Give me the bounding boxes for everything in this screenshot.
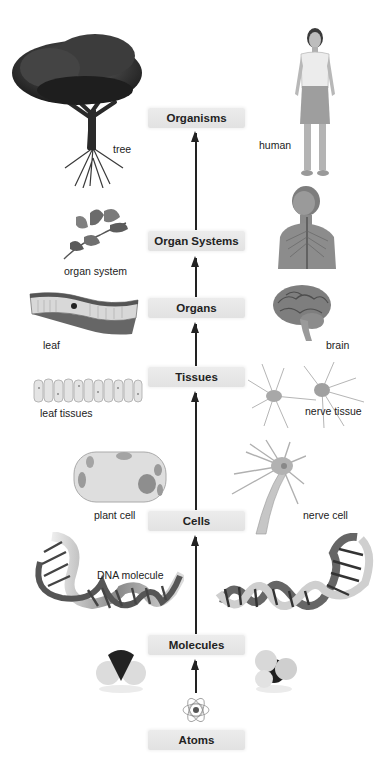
level-label: Organ Systems bbox=[154, 235, 238, 247]
nerve-tissue-icon bbox=[244, 360, 374, 430]
level-label: Tissues bbox=[175, 371, 218, 383]
caption-nerve-tissue: nerve tissue bbox=[305, 405, 362, 417]
level-organs: Organs bbox=[148, 298, 245, 318]
level-molecules: Molecules bbox=[148, 635, 245, 655]
atom-icon bbox=[181, 695, 211, 725]
arrow-up-icon bbox=[195, 661, 197, 693]
arrow-up-icon bbox=[195, 324, 197, 366]
caption-nerve-cell: nerve cell bbox=[303, 509, 348, 521]
level-label: Molecules bbox=[169, 639, 225, 651]
caption-dna-molecule: DNA molecule bbox=[97, 569, 164, 581]
tree-icon bbox=[5, 18, 145, 188]
leaf-cross-section-icon bbox=[28, 288, 140, 340]
leaf-tissue-icon bbox=[32, 376, 144, 406]
level-organ-systems: Organ Systems bbox=[148, 231, 245, 251]
level-label: Organs bbox=[176, 302, 216, 314]
caption-leaf: leaf bbox=[43, 339, 60, 351]
caption-brain: brain bbox=[326, 339, 349, 351]
arrow-up-icon bbox=[195, 258, 197, 297]
caption-human: human bbox=[259, 139, 291, 151]
level-tissues: Tissues bbox=[148, 367, 245, 387]
human-figure-icon bbox=[290, 26, 340, 178]
plant-cell-icon bbox=[72, 450, 168, 504]
level-organisms: Organisms bbox=[148, 108, 245, 128]
nervous-system-torso-icon bbox=[274, 185, 342, 271]
level-label: Organisms bbox=[166, 112, 226, 124]
arrow-up-icon bbox=[195, 393, 197, 510]
dna-helix-right-icon bbox=[215, 533, 375, 623]
water-molecule-icon bbox=[96, 647, 146, 695]
arrow-up-icon bbox=[195, 133, 197, 230]
caption-plant-cell: plant cell bbox=[94, 509, 135, 521]
arrow-up-icon bbox=[195, 537, 197, 634]
leaf-branch-icon bbox=[60, 205, 130, 261]
level-atoms: Atoms bbox=[148, 730, 245, 750]
caption-leaf-tissues: leaf tissues bbox=[40, 407, 93, 419]
methane-molecule-icon bbox=[252, 647, 298, 695]
caption-organ-system: organ system bbox=[64, 265, 127, 277]
caption-tree: tree bbox=[113, 143, 131, 155]
brain-icon bbox=[272, 283, 336, 343]
level-label: Atoms bbox=[179, 734, 215, 746]
level-label: Cells bbox=[183, 515, 211, 527]
nerve-cell-icon bbox=[226, 438, 306, 536]
